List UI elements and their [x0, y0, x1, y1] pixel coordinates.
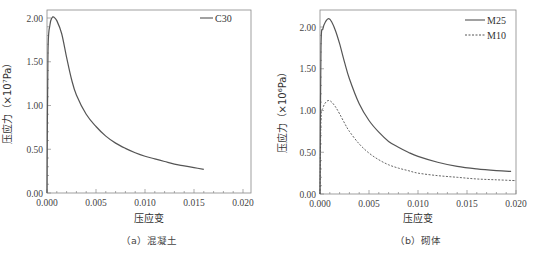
x-tick-label: 0.015 — [183, 198, 205, 208]
x-tick-label: 0.000 — [309, 199, 331, 209]
data-lines — [320, 19, 516, 194]
y-tick-label: 0.50 — [26, 145, 43, 155]
legend: M25 M10 — [465, 15, 506, 41]
x-tick-label: 0.020 — [232, 198, 254, 208]
y-tick-label: 0.00 — [299, 190, 316, 200]
y-axis-title: 压应力（×10⁶Pa） — [276, 67, 288, 154]
series-line-m25 — [320, 19, 511, 194]
x-axis-ticks: 0.0000.0050.0100.0150.020 — [309, 190, 527, 209]
chart-panel-masonry: 0.0000.0050.0100.0150.020 0.000.501.001.… — [276, 10, 527, 246]
y-axis-title: 压应力（×10⁷Pa） — [1, 58, 13, 145]
data-lines — [47, 17, 204, 193]
x-tick-label: 0.005 — [358, 199, 380, 209]
x-tick-label: 0.000 — [36, 198, 58, 208]
y-tick-label: 1.00 — [299, 106, 316, 116]
figure-canvas: 0.0000.0050.0100.0150.020 0.000.501.001.… — [0, 0, 533, 257]
x-axis-title: 压应变 — [403, 212, 433, 224]
series-line-c30 — [47, 17, 204, 193]
panel-caption: （a）混凝土 — [121, 235, 177, 246]
legend: C30 — [200, 13, 232, 24]
y-tick-label: 1.00 — [26, 101, 43, 111]
y-tick-label: 1.50 — [299, 64, 316, 74]
chart-panel-concrete: 0.0000.0050.0100.0150.020 0.000.501.001.… — [1, 10, 254, 246]
panel-caption: （b）砌体 — [395, 235, 441, 246]
y-tick-label: 1.50 — [26, 57, 43, 67]
y-tick-label: 2.00 — [26, 14, 43, 24]
plot-frame — [47, 10, 251, 193]
y-tick-label: 0.00 — [26, 189, 43, 199]
x-tick-label: 0.020 — [505, 199, 527, 209]
legend-label-m10: M10 — [487, 30, 506, 41]
x-tick-label: 0.010 — [134, 198, 156, 208]
y-tick-label: 2.00 — [299, 23, 316, 33]
x-axis-title: 压应变 — [134, 212, 164, 224]
x-axis-ticks: 0.0000.0050.0100.0150.020 — [36, 189, 254, 208]
legend-label-c30: C30 — [215, 13, 232, 24]
x-tick-label: 0.015 — [456, 199, 478, 209]
legend-label-m25: M25 — [487, 15, 506, 26]
series-line-m10 — [320, 100, 516, 194]
y-tick-label: 0.50 — [299, 148, 316, 158]
x-tick-label: 0.010 — [407, 199, 429, 209]
x-tick-label: 0.005 — [85, 198, 107, 208]
